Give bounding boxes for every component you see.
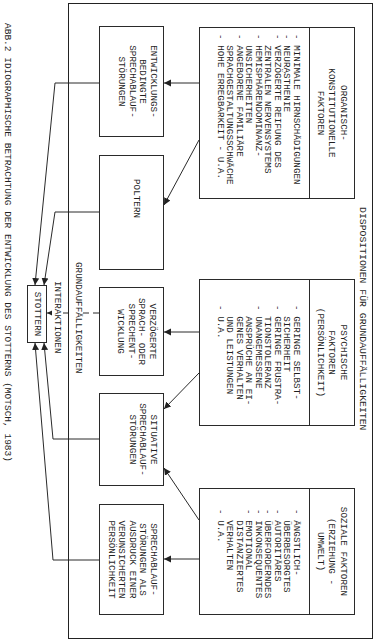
box-line: WICKLUNG [115, 288, 126, 375]
list-item-text: U.A. [215, 316, 226, 338]
outcome-box-poltern: POLTERN [99, 155, 164, 270]
header-line: KONSTITUTIONELLE [326, 28, 338, 198]
list-item-text: HOHE ERREGBARKEIT - U.A. [215, 45, 226, 179]
list-item-text: DISTANZIERTES [234, 520, 245, 593]
list-item-line: -MINIMALE HIRNSCHÄDIGUNGEN [292, 34, 302, 198]
box-line: ENTWICKLUNGS- [148, 27, 159, 136]
interaktionen-label: INTERAKTIONEN [52, 281, 62, 355]
box-line: SITUATIVE [148, 394, 159, 485]
list-item-text: TIONSTOLERANZ [263, 316, 274, 389]
stottern-label: STOTTERN [32, 292, 43, 337]
header-line: UMWELT) [315, 489, 327, 614]
list-item-line: UNSICHERHEITEN [244, 34, 254, 198]
list-item-line: -UNANGEMESSENE [254, 305, 264, 425]
factor-box-organic: ORGANISCH- KONSTITUTIONELLE FAKTOREN -MI… [199, 27, 355, 199]
list-item-text: GERINGE FRUSTRA- [272, 316, 283, 405]
bullet: - [263, 509, 273, 520]
box-line: SPRECHABLAUF- [148, 505, 159, 614]
list-item-text: HEMISPHÄRENDOMINANZ- [253, 45, 264, 157]
list-item-line: -GERINGE SELBST- [292, 305, 302, 425]
factor-box-social: SOZIALE FAKTOREN (ERZIEHUNG - UMWELT) -Ä… [199, 488, 355, 615]
list-item-line: -ANGEBORENE FAMILIÄRE [235, 34, 245, 198]
list-item-line: -GERINGE FRUSTRA- [273, 305, 283, 425]
header-line: PSYCHISCHE [338, 280, 350, 425]
list-item-text: UND LEISTUNGEN [225, 316, 236, 394]
list-item-text: ÜBERFORDERNDES [263, 520, 274, 598]
header-line: ORGANISCH- [338, 28, 350, 198]
outcome-box-verzoegert: VERZÖGERTE SPRACH- ODER SPRECHENT- WICKL… [99, 287, 164, 376]
list-item-line: SPRACHGESTALTUNGSSCHWÄCHE [225, 34, 235, 198]
factor-box-psychic: PSYCHISCHE FAKTOREN (PERSÖNLICHKEIT) -GE… [199, 279, 355, 426]
factor-list: -GERINGE SELBST- SICHERHEIT -GERINGE FRU… [200, 280, 309, 425]
bullet: - [235, 34, 245, 45]
factor-box-header: SOZIALE FAKTOREN (ERZIEHUNG - UMWELT) [309, 489, 354, 614]
list-item-line: UND LEISTUNGEN [225, 305, 235, 425]
outcome-box-entwicklungsbedingt: ENTWICKLUNGS- BEDINGTE SPRECHABLAUF- STÖ… [99, 26, 164, 137]
list-item-line: -ÜBERFORDERNDES [263, 509, 273, 614]
list-item-text: VERHALTEN [225, 520, 236, 570]
bullet: - [292, 509, 302, 520]
outcome-box-persoenlichkeit: SPRECHABLAUF- STÖRUNGEN ALS AUSDRUCK EIN… [99, 504, 164, 615]
list-item-line: VERHALTEN [225, 509, 235, 614]
box-line: PERSÖNLICHKEIT [106, 505, 117, 614]
list-item-text: UNANGEMESSENE [253, 316, 264, 389]
factor-list: -ÄNGSTLICH- ÜBERBESORGTES -AUTORITÄRES -… [200, 489, 309, 614]
list-item-text: AUTORITÄRES [272, 520, 283, 581]
grundauffaelligkeiten-label: GRUNDAUFFÄLLIGKEITEN [73, 262, 83, 374]
header-line: SOZIALE FAKTOREN [338, 489, 350, 614]
box-line: POLTERN [131, 179, 142, 269]
list-item-text: ÄNGSTLICH- [291, 520, 302, 576]
header-line: (PERSÖNLICHKEIT) [315, 280, 327, 425]
bullet: - [244, 509, 254, 520]
box-line: AUSDRUCK EINER [127, 505, 138, 614]
list-item-text: INKONSEQUENTES [253, 520, 264, 598]
bullet: - [254, 509, 264, 520]
box-line: SPRECHABLAUF- [137, 394, 148, 485]
list-item-line: -ÄNGSTLICH- [292, 509, 302, 614]
list-item-text: U.A. [215, 520, 226, 542]
frame-title: DISPOSITIONEN FÜR GRUNDAUFFÄLLIGKEITEN [357, 207, 367, 430]
stottern-box: STOTTERN [27, 285, 47, 343]
list-item-text: SPRACHGESTALTUNGSSCHWÄCHE [225, 45, 236, 184]
box-line: SPRECHENT- [126, 288, 137, 375]
list-item-line: GENES VERHALTEN [235, 305, 245, 425]
list-item-text: GERINGE SELBST- [291, 316, 302, 400]
list-item-line: -VERZÖGERTE REIFUNG DES [273, 34, 283, 198]
list-item-text: VERZÖGERTE REIFUNG DES [272, 45, 283, 168]
list-item-line: ÜBERBESORGTES [282, 509, 292, 614]
list-item-text: GENES VERHALTEN [234, 316, 245, 400]
factor-list: -MINIMALE HIRNSCHÄDIGUNGEN -NEURASTHENIE… [200, 28, 309, 198]
list-item-line: SICHERHEIT [282, 305, 292, 425]
bullet: - [216, 509, 226, 520]
factor-box-header: ORGANISCH- KONSTITUTIONELLE FAKTOREN [309, 28, 354, 198]
bullet: - [282, 34, 292, 45]
list-item-text: ANSPRÜCHE AN EI- [244, 316, 255, 405]
box-line: STÖRUNGEN [116, 27, 127, 136]
list-item-line: -AUTORITÄRES [273, 509, 283, 614]
header-line: FAKTOREN [326, 280, 338, 425]
list-item-line: -HOHE ERREGBARKEIT - U.A. [216, 34, 226, 198]
outcome-box-situativ: SITUATIVE SPRECHABLAUF- STÖRUNGEN [99, 393, 164, 486]
factor-box-header: PSYCHISCHE FAKTOREN (PERSÖNLICHKEIT) [309, 280, 354, 425]
header-line: FAKTOREN [315, 28, 327, 198]
bullet: - [273, 34, 283, 45]
box-line: BEDINGTE [137, 27, 148, 136]
bullet: - [254, 305, 264, 316]
figure-caption: ABB.2 IDIOGRAPHISCHE BETRACHTUNG DER ENT… [2, 23, 12, 462]
list-item-line: DISTANZIERTES [235, 509, 245, 614]
box-line: VERUNSICHERTEN [116, 505, 127, 614]
bullet: - [292, 34, 302, 45]
bullet: - [273, 305, 283, 316]
bullet: - [216, 34, 226, 45]
list-item-text: SICHERHEIT [282, 316, 293, 372]
bullet: - [292, 305, 302, 316]
list-item-line: ZENTRALEN NERVENSYSTEMS [263, 34, 273, 198]
bullet: - [254, 34, 264, 45]
list-item-line: ANSPRÜCHE AN EI- [244, 305, 254, 425]
box-line: SPRACH- ODER [136, 288, 147, 375]
header-line: (ERZIEHUNG - [326, 489, 338, 614]
list-item-line: -INKONSEQUENTES [254, 509, 264, 614]
box-line: STÖRUNGEN [127, 394, 138, 485]
bullet: - [216, 305, 226, 316]
list-item-line: TIONSTOLERANZ [263, 305, 273, 425]
